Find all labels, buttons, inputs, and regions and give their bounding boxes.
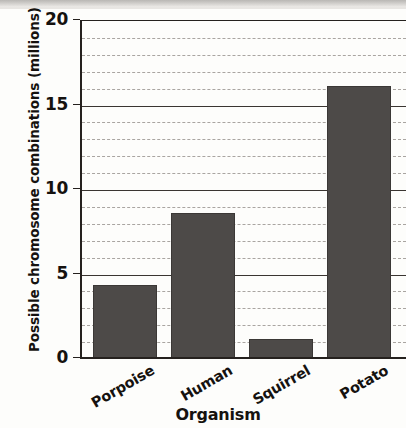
gridline-minor — [82, 55, 406, 56]
y-tick-mark — [73, 188, 80, 189]
bar-squirrel — [249, 339, 313, 358]
x-axis-baseline — [80, 357, 406, 359]
bar-chart-figure: 05101520 Possible chromosome combination… — [0, 0, 406, 428]
plot-area — [80, 20, 406, 358]
y-tick-mark — [73, 273, 80, 274]
x-tick-label-porpoise: Porpoise — [88, 362, 157, 411]
gridline-minor — [82, 72, 406, 73]
gridline-minor — [82, 38, 406, 39]
y-axis-title: Possible chromosome combinations (millio… — [26, 22, 42, 352]
x-tick-label-squirrel: Squirrel — [250, 362, 313, 408]
bar-potato — [327, 86, 391, 358]
bar-human — [171, 213, 235, 358]
y-tick-mark — [73, 104, 80, 105]
y-tick-mark — [73, 19, 80, 20]
x-tick-label-human: Human — [178, 362, 235, 404]
bar-porpoise — [93, 285, 157, 358]
y-tick-mark — [73, 357, 80, 358]
x-axis-title: Organism — [80, 405, 356, 424]
x-tick-label-potato: Potato — [337, 362, 391, 402]
